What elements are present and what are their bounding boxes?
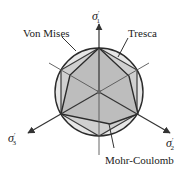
tresca-label: Tresca (128, 28, 157, 39)
sigma1-label: σ′1 (92, 10, 100, 25)
von-mises-label: Von Mises (23, 28, 70, 39)
origin-dot (97, 90, 101, 94)
tresca-leader (118, 38, 128, 57)
sigma2-label: σ′2 (166, 137, 174, 152)
mohr-coulomb-label: Mohr-Coulomb (105, 155, 174, 166)
sigma3-label: σ′3 (8, 132, 16, 147)
von-mises-leader (62, 37, 76, 51)
